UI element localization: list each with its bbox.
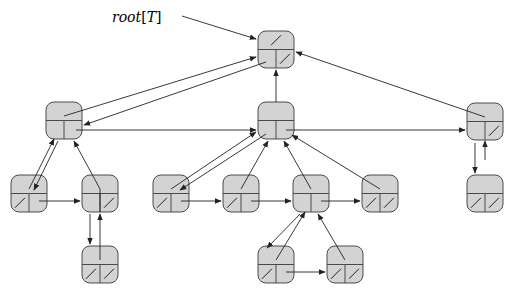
edge-parent-arrow-icon (64, 57, 256, 116)
tree-node-D (11, 175, 47, 212)
root-label-close: ] (156, 9, 161, 25)
tree-node-L (258, 246, 294, 283)
tree-node-I (362, 175, 398, 212)
nodes-layer (11, 31, 503, 283)
tree-node-A (46, 102, 82, 139)
tree-node-J (467, 175, 503, 212)
root-label-prefix: root (112, 9, 142, 25)
edges-layer (29, 16, 485, 272)
root-label: root[T] (112, 9, 161, 25)
edge-root-pointer-arrow-icon (182, 16, 256, 39)
edge-left-child-arrow-icon (84, 62, 266, 125)
edge-parent-arrow-icon (296, 52, 485, 117)
edge-left-child-arrow-icon (267, 214, 300, 248)
tree-node-B (258, 102, 294, 139)
tree-node-C (467, 103, 503, 140)
tree-node-H (293, 175, 329, 212)
tree-node-G (223, 175, 259, 212)
tree-diagram: root[T] (0, 0, 514, 298)
tree-node-M (327, 246, 363, 283)
